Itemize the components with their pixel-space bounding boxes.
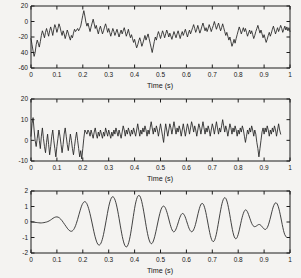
y-tick-label: 1	[24, 203, 28, 210]
x-tick-label: 0.9	[260, 71, 269, 78]
x-tick-label: 0.5	[156, 256, 165, 263]
y-tick-label: 0	[24, 18, 28, 25]
plot-svg-1: 00.10.20.30.40.50.60.70.80.91 200-2040-6…	[0, 0, 301, 93]
x-tick-label: 1	[288, 256, 292, 263]
x-tick-label: 0.9	[260, 164, 269, 171]
plot-svg-2: 00.10.20.30.40.50.60.70.80.91 20100-10 T…	[0, 93, 301, 185]
x-tick-label: 0.7	[208, 256, 217, 263]
x-tick-label: 0.3	[104, 256, 113, 263]
x-tick-label: 1	[288, 71, 292, 78]
x-tick-label: 0.2	[78, 256, 87, 263]
x-tick-label: 0.8	[234, 164, 243, 171]
y-tick-label: 10	[21, 116, 29, 123]
signal-trace-1	[31, 11, 290, 57]
x-axis-label-2: Time (s)	[147, 174, 173, 183]
x-tick-label: 0.4	[130, 71, 139, 78]
x-ticklabels-3: 00.10.20.30.40.50.60.70.80.91	[29, 256, 292, 263]
x-tick-label: 0.2	[78, 164, 87, 171]
x-tick-label: 0	[29, 256, 33, 263]
y-tick-label: -10	[19, 157, 29, 164]
signal-plot-panel-2: 00.10.20.30.40.50.60.70.80.91 20100-10 T…	[0, 93, 301, 185]
x-tick-label: 0.6	[182, 71, 191, 78]
x-tick-label: 0.8	[234, 256, 243, 263]
y-tick-label: 0	[24, 218, 28, 225]
x-ticklabels-1: 00.10.20.30.40.50.60.70.80.91	[29, 71, 292, 78]
three-panel-time-series-figure: 00.10.20.30.40.50.60.70.80.91 200-2040-6…	[0, 0, 301, 278]
x-tick-label: 0.6	[182, 164, 191, 171]
y-tick-label: 20	[21, 95, 29, 102]
y-ticklabels-2: 20100-10	[19, 95, 29, 164]
y-ticklabels-3: 210-1-2	[22, 187, 28, 256]
signal-plot-panel-3: 00.10.20.30.40.50.60.70.80.91 210-1-2 Ti…	[0, 185, 301, 278]
x-tick-label: 0.6	[182, 256, 191, 263]
x-tick-label: 0.7	[208, 164, 217, 171]
y-tick-label: 2	[24, 187, 28, 194]
x-tick-label: 0.1	[52, 256, 61, 263]
x-tick-label: 0.3	[104, 71, 113, 78]
x-tick-label: 0.1	[52, 164, 61, 171]
signal-plot-panel-1: 00.10.20.30.40.50.60.70.80.91 200-2040-6…	[0, 0, 301, 93]
x-tick-label: 0.2	[78, 71, 87, 78]
y-tick-label: 40	[21, 49, 29, 56]
x-tick-label: 1	[288, 164, 292, 171]
y-tick-label: 0	[24, 137, 28, 144]
x-tick-label: 0.1	[52, 71, 61, 78]
x-tick-label: 0	[29, 164, 33, 171]
x-tick-label: 0.8	[234, 71, 243, 78]
x-tick-label: 0.4	[130, 256, 139, 263]
y-tick-label: 20	[21, 2, 29, 9]
plot-svg-3: 00.10.20.30.40.50.60.70.80.91 210-1-2 Ti…	[0, 185, 301, 278]
y-tick-label: -2	[22, 249, 28, 256]
y-tick-label: -1	[22, 234, 28, 241]
x-axis-label-1: Time (s)	[147, 81, 173, 90]
x-ticklabels-2: 00.10.20.30.40.50.60.70.80.91	[29, 164, 292, 171]
signal-trace-2	[31, 118, 281, 159]
x-tick-label: 0.5	[156, 71, 165, 78]
x-tick-label: 0	[29, 71, 33, 78]
y-tick-label: -20	[19, 33, 29, 40]
y-tick-label: -60	[19, 64, 29, 71]
y-ticklabels-1: 200-2040-60	[19, 2, 29, 71]
x-tick-label: 0.4	[130, 164, 139, 171]
x-tick-label: 0.3	[104, 164, 113, 171]
x-tick-label: 0.5	[156, 164, 165, 171]
x-tick-label: 0.7	[208, 71, 217, 78]
x-tick-label: 0.9	[260, 256, 269, 263]
signal-trace-3	[31, 195, 286, 247]
x-axis-label-3: Time (s)	[147, 266, 173, 275]
